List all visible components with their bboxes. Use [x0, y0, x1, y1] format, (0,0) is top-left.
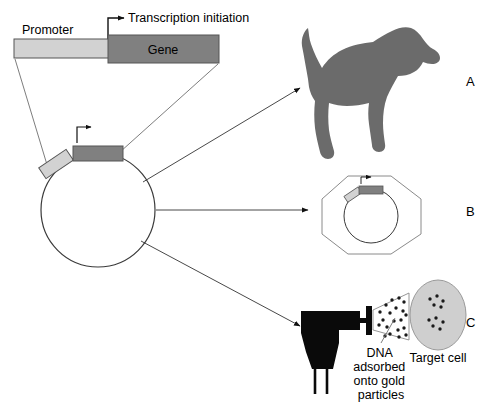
dna-label-line-1: DNA [366, 346, 393, 360]
target-cell-oval [410, 280, 466, 350]
gene-label: Gene [148, 43, 179, 57]
inner-plasmid-gene [359, 186, 383, 194]
target-cell-label: Target cell [410, 351, 467, 365]
panel-label-a: A [466, 74, 475, 89]
promoter-bar [14, 39, 109, 58]
panel-label-c: C [466, 315, 475, 330]
panel-label-b: B [466, 204, 475, 219]
gene-gun-trigger [330, 330, 339, 336]
promoter-label: Promoter [22, 23, 73, 37]
dna-label-line-3: onto gold [354, 374, 405, 388]
transcription-initiation-label: Transcription initiation [128, 11, 249, 25]
plasmid-gene-bar [73, 146, 123, 161]
gene-transfer-diagram: Transcription initiation Promoter Gene A [0, 0, 492, 408]
dna-label-line-2: adsorbed [353, 360, 405, 374]
dna-label-line-4: particles [358, 388, 405, 402]
